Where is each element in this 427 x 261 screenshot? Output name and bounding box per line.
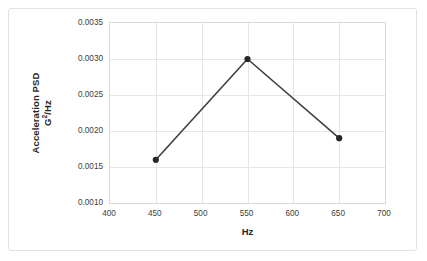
- y-axis-tick-label: 0.0035: [59, 18, 103, 27]
- chart-figure-frame: Acceleration PSD G2/Hz 0.00100.00150.002…: [8, 8, 417, 251]
- plot-area: [109, 22, 386, 204]
- x-axis-tick-label: 450: [135, 209, 175, 218]
- y-axis-unit-base: G: [42, 118, 53, 126]
- y-axis-tick-label: 0.0030: [59, 54, 103, 63]
- x-axis-tick-label: 600: [272, 209, 312, 218]
- x-axis-tick-label: 550: [227, 209, 267, 218]
- data-point-marker: [153, 157, 159, 163]
- y-axis-tick-label: 0.0025: [59, 90, 103, 99]
- x-axis-tick-label: 700: [364, 209, 404, 218]
- x-axis-tick-label: 650: [318, 209, 358, 218]
- y-axis-title: Acceleration PSD G2/Hz: [22, 33, 62, 193]
- series-line: [156, 59, 339, 160]
- y-axis-tick-label: 0.0020: [59, 126, 103, 135]
- data-series-line: [110, 23, 385, 203]
- y-axis-tick-labels: 0.00100.00150.00200.00250.00300.0035: [57, 22, 103, 204]
- y-axis-tick-label: 0.0010: [59, 198, 103, 207]
- y-axis-unit-superscript: 2: [41, 115, 48, 119]
- y-axis-title-line2: G2/Hz: [42, 100, 54, 126]
- data-point-marker: [244, 56, 250, 62]
- y-axis-unit-tail: /Hz: [42, 100, 53, 115]
- y-axis-title-line1: Acceleration PSD: [30, 73, 42, 154]
- x-axis-tick-labels: 400450500550600650700: [109, 209, 386, 223]
- x-axis-tick-label: 400: [89, 209, 129, 218]
- x-axis-title: Hz: [109, 226, 386, 237]
- x-axis-tick-label: 500: [181, 209, 221, 218]
- data-point-marker: [336, 135, 342, 141]
- y-axis-tick-label: 0.0015: [59, 162, 103, 171]
